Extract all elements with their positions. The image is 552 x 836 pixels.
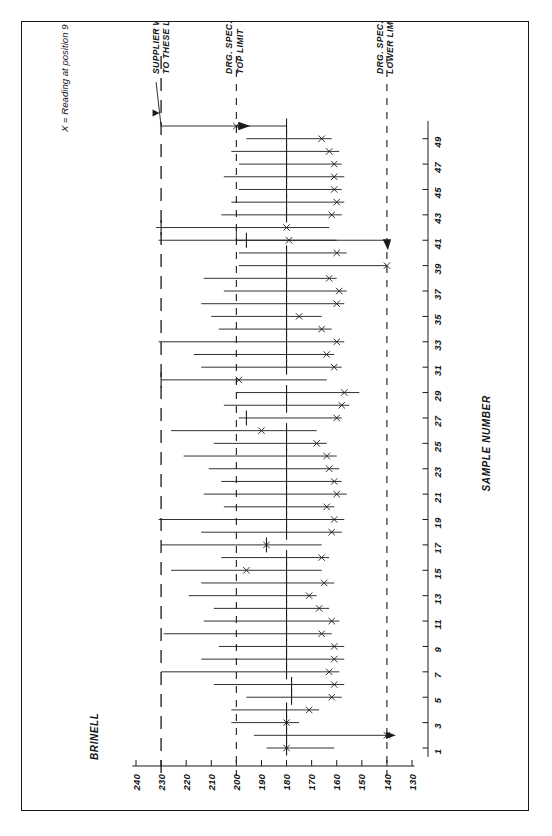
sample-row: [246, 690, 341, 705]
sample-tick-label: 17: [432, 542, 443, 553]
sample-tick-label: 35: [432, 314, 443, 325]
svg-text:LOWER LIMIT: LOWER LIMIT: [385, 22, 395, 74]
sample-tick-label: 29: [432, 390, 443, 402]
svg-text:TO THESE LIMITS: TO THESE LIMITS: [161, 22, 171, 74]
sample-tick-label: 45: [432, 187, 443, 199]
figure-page: 240230220210200190180170160150140130BRIN…: [0, 0, 552, 836]
sample-tick-label: 39: [432, 263, 443, 274]
brinell-range-chart: 240230220210200190180170160150140130BRIN…: [22, 22, 530, 812]
sample-row: [239, 182, 342, 197]
sample-tick-label: 9: [432, 647, 443, 653]
sample-row: [239, 245, 347, 260]
brinell-axis-title: BRINELL: [89, 712, 100, 760]
sample-row: [201, 652, 344, 667]
sample-tick-label: 3: [432, 723, 443, 729]
sample-tick-label: 49: [432, 136, 443, 148]
brinell-tick-label: 180: [281, 773, 292, 790]
brinell-tick-label: 170: [306, 773, 317, 790]
figure-frame: 240230220210200190180170160150140130BRIN…: [21, 21, 529, 811]
drg-spec-lower-limit-label: DRG. SPEC.LOWER LIMIT: [375, 22, 395, 74]
sample-tick-label: 21: [432, 492, 443, 504]
supplier-label-triangle-icon: [153, 109, 160, 116]
sample-tick-label: 31: [432, 365, 443, 376]
sample-tick-label: 11: [432, 619, 443, 629]
sample-2-lower-limit-arrow: [386, 732, 396, 739]
sample-rows-layer: [156, 119, 390, 756]
sample-tick-label: 25: [432, 441, 443, 453]
sample-row: [159, 334, 345, 349]
svg-text:DRG. SPEC.: DRG. SPEC.: [375, 22, 385, 74]
sample-row: [239, 258, 390, 273]
sample-row: [239, 410, 342, 425]
sample-row: [194, 347, 335, 362]
sample-row: [189, 588, 317, 603]
sample-tick-label: 33: [432, 339, 443, 350]
sample-41-lower-limit-arrow: [236, 228, 391, 251]
sample-row: [219, 639, 344, 654]
sample-row: [219, 322, 332, 337]
sample-tick-label: 23: [432, 466, 443, 478]
leader-arrowhead: [238, 122, 250, 130]
brinell-tick-label: 230: [156, 773, 167, 791]
sample-row: [221, 474, 341, 489]
sample-row: [221, 550, 329, 565]
sample-row: [161, 372, 327, 387]
sample-row: [214, 677, 344, 692]
sample-row: [184, 449, 337, 464]
figure-note: X = Reading at position 9: [59, 24, 70, 133]
sample-row: [231, 715, 299, 730]
arrowhead: [383, 239, 391, 250]
svg-text:SUPPLIER WORKING: SUPPLIER WORKING: [151, 22, 161, 74]
brinell-tick-label: 140: [382, 773, 393, 790]
svg-text:DRG. SPEC.: DRG. SPEC.: [224, 22, 234, 74]
brinell-tick-label: 220: [181, 773, 192, 791]
sample-row: [164, 626, 332, 641]
sample-row: [171, 423, 317, 438]
brinell-tick-label: 200: [231, 773, 242, 791]
sample-row: [201, 575, 334, 590]
sample-row: [221, 207, 341, 222]
sample-row: [159, 512, 345, 527]
sample-tick-label: 37: [432, 288, 443, 299]
supplier-limit-label: SUPPLIER WORKINGTO THESE LIMITS: [151, 22, 171, 74]
brinell-tick-label: 130: [407, 773, 418, 790]
arrowhead: [386, 732, 396, 739]
sample-axis-title: SAMPLE NUMBER: [481, 395, 492, 491]
sample-tick-label: 5: [432, 697, 443, 703]
brinell-tick-label: 210: [206, 773, 217, 791]
sample-tick-label: 1: [432, 749, 443, 754]
brinell-tick-label: 160: [331, 773, 342, 790]
brinell-tick-label: 190: [256, 773, 267, 790]
sample-row: [171, 563, 322, 578]
sample-row: [211, 309, 321, 324]
sample-row: [266, 741, 334, 756]
sample-row: [214, 601, 329, 616]
sample-row: [224, 169, 344, 184]
sample-tick-label: 15: [432, 568, 443, 579]
sample-row: [236, 385, 359, 400]
sample-tick-label: 43: [432, 212, 443, 224]
sample-tick-label: 19: [432, 517, 443, 528]
sample-row: [204, 487, 347, 502]
sample-row: [224, 284, 347, 299]
drg-spec-top-limit-label: DRG. SPEC.TOP LIMIT: [224, 22, 244, 74]
sample-row: [209, 461, 339, 476]
sample-tick-label: 7: [432, 672, 443, 678]
sample-row: [231, 144, 339, 159]
sample-row: [204, 614, 339, 629]
svg-text:TOP LIMIT: TOP LIMIT: [235, 28, 245, 74]
sample-row: [214, 436, 327, 451]
sample-row: [201, 525, 342, 540]
sample-row: [231, 702, 319, 717]
labels-layer: SUPPLIER WORKINGTO THESE LIMITSDRG. SPEC…: [59, 22, 396, 739]
sample-row: [204, 271, 337, 286]
sample-row: [231, 195, 344, 210]
sample-tick-label: 47: [432, 161, 443, 173]
sample-row: [201, 296, 344, 311]
sample-row: [161, 664, 339, 679]
brinell-tick-label: 240: [131, 773, 142, 791]
sample-row: [239, 157, 342, 172]
sample-row: [201, 360, 342, 375]
sample-row: [156, 220, 329, 235]
sample-tick-label: 41: [432, 238, 443, 250]
